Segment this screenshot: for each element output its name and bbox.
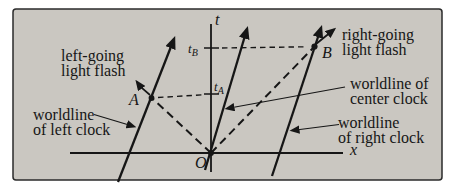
- event-B-label: B: [322, 44, 332, 61]
- figure-canvas: t x O tB tA: [0, 0, 453, 195]
- left-clock-label-line2: of left clock: [33, 121, 110, 138]
- tA-label-subscript: A: [217, 85, 225, 96]
- tB-label-subscript: B: [192, 47, 198, 58]
- left-flash-label-line2: light flash: [61, 62, 125, 80]
- event-A-label: A: [128, 91, 139, 108]
- spacetime-diagram: t x O tB tA: [0, 0, 453, 195]
- event-B-dot: [311, 43, 317, 49]
- event-A-dot: [149, 95, 155, 101]
- right-flash-label-line2: light flash: [342, 41, 406, 59]
- t-axis-label: t: [215, 11, 220, 28]
- center-clock-label-line2: center clock: [350, 90, 428, 107]
- right-clock-label-line2: of right clock: [338, 129, 424, 147]
